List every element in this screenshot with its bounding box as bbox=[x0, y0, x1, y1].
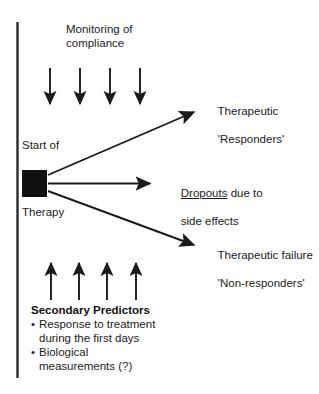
dropouts-emphasis-word: Dropouts bbox=[181, 187, 228, 199]
start-of-therapy-node bbox=[22, 170, 47, 197]
therapy-label: Therapy bbox=[22, 205, 64, 219]
outcome-label-dropouts: Dropouts due to side effects bbox=[168, 172, 263, 242]
non-responders-line-1: Therapeutic failure bbox=[218, 249, 313, 261]
list-item: • Biological measurements (?) bbox=[31, 346, 211, 373]
branch-arrow-responders bbox=[48, 112, 194, 175]
list-item: • Response to treatment during the first… bbox=[31, 318, 211, 345]
secondary-predictor-bullet-1: Response to treatment during the first d… bbox=[39, 318, 211, 345]
responders-line-1: Therapeutic bbox=[218, 105, 279, 117]
start-of-label: Start of bbox=[22, 138, 59, 152]
bullet-point-icon: • bbox=[31, 346, 39, 373]
bullet-point-icon: • bbox=[31, 318, 39, 345]
monitoring-arrows-group bbox=[50, 68, 140, 104]
secondary-predictors-title: Secondary Predictors bbox=[31, 303, 211, 317]
secondary-predictors-block: Secondary Predictors • Response to treat… bbox=[31, 303, 211, 373]
diagram-canvas: Monitoring of compliance Start of Therap… bbox=[0, 0, 319, 394]
secondary-predictor-arrows-group bbox=[51, 263, 136, 300]
non-responders-line-2: 'Non-responders' bbox=[218, 277, 305, 289]
dropouts-line-1-rest: due to bbox=[227, 187, 262, 199]
responders-line-2: 'Responders' bbox=[218, 133, 284, 145]
outcome-label-non-responders: Therapeutic failure 'Non-responders' bbox=[205, 234, 313, 304]
dropouts-line-2: side effects bbox=[181, 215, 239, 227]
secondary-predictor-bullet-2: Biological measurements (?) bbox=[39, 346, 211, 373]
monitoring-of-compliance-label: Monitoring of compliance bbox=[66, 22, 132, 50]
outcome-label-responders: Therapeutic 'Responders' bbox=[205, 90, 284, 160]
